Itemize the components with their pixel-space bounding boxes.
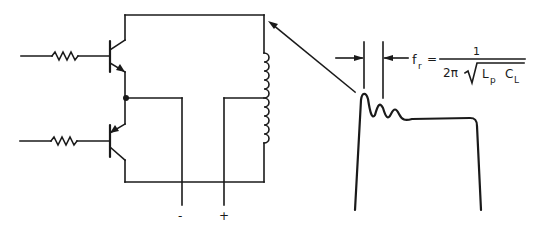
formula-C-subscript: L	[514, 75, 519, 85]
circuit-diagram: - + f r = 1 2π L p C L	[0, 0, 537, 230]
emitter-arrow-icon	[116, 64, 125, 72]
pointer-arrow	[268, 21, 355, 92]
formula-L-subscript: p	[490, 75, 496, 85]
formula-two-pi: 2π	[443, 66, 458, 80]
formula-equals: =	[427, 52, 437, 66]
formula-L: L	[482, 67, 489, 81]
upper-input-resistor	[21, 52, 109, 60]
positive-terminal-label: +	[219, 209, 229, 223]
ring-period-marker	[336, 42, 408, 98]
lower-transistor-pnp	[110, 98, 125, 182]
formula-f-subscript: r	[418, 61, 422, 71]
negative-terminal-label: -	[178, 209, 182, 223]
lower-input-resistor	[20, 137, 109, 145]
arrowhead-right-icon	[354, 55, 364, 61]
circuit-wires	[125, 15, 264, 205]
resonant-frequency-formula: f r = 1 2π L p C L	[412, 45, 525, 85]
center-tapped-inductor	[264, 53, 269, 143]
arrowhead-left-icon	[383, 55, 393, 61]
formula-f: f	[412, 52, 417, 67]
ringing-waveform	[355, 94, 481, 210]
formula-numerator: 1	[473, 45, 480, 58]
emitter-arrow-icon	[110, 125, 119, 133]
formula-C: C	[505, 67, 513, 81]
upper-transistor-npn	[110, 15, 125, 98]
